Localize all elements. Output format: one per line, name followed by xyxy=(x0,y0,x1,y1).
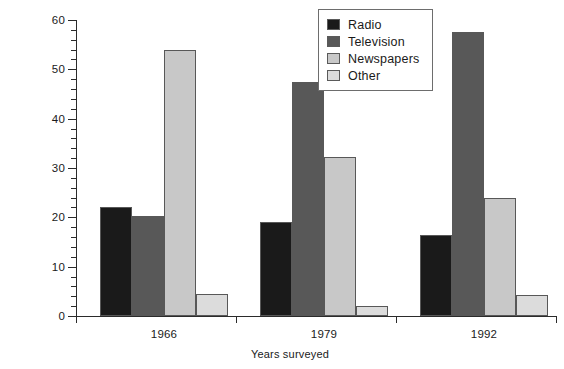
x-axis-tick xyxy=(76,316,77,323)
y-axis-tick-label: 50 xyxy=(52,63,65,75)
bar-other-1992 xyxy=(516,295,548,316)
bar-television-1992 xyxy=(452,32,484,316)
legend-item-radio: Radio xyxy=(327,16,419,33)
bar-television-1979 xyxy=(292,82,324,316)
bar-other-1979 xyxy=(356,306,388,316)
x-axis-tick-label: 1979 xyxy=(311,328,337,340)
x-axis-tick-label: 1966 xyxy=(151,328,177,340)
y-axis-tick-label: 30 xyxy=(52,162,65,174)
legend-swatch-icon xyxy=(327,70,340,81)
y-axis-major-tick xyxy=(68,267,76,268)
x-axis-tick xyxy=(396,316,397,323)
bar-newspapers-1966 xyxy=(164,50,196,316)
y-axis-tick-label: 0 xyxy=(58,310,65,322)
chart-legend: RadioTelevisionNewspapersOther xyxy=(318,9,433,91)
y-axis-tick-label: 20 xyxy=(52,211,65,223)
x-axis-tick xyxy=(236,316,237,323)
legend-swatch-icon xyxy=(327,53,340,64)
bar-television-1966 xyxy=(132,216,164,316)
y-axis-major-tick xyxy=(68,217,76,218)
legend-label: Television xyxy=(348,35,405,49)
bar-newspapers-1992 xyxy=(484,198,516,316)
legend-swatch-icon xyxy=(327,36,340,47)
legend-item-newspapers: Newspapers xyxy=(327,50,419,67)
bar-radio-1979 xyxy=(260,222,292,316)
x-axis-tick xyxy=(556,316,557,323)
bar-radio-1992 xyxy=(420,235,452,316)
bar-newspapers-1979 xyxy=(324,157,356,316)
bar-chart: 0102030405060 Percentage of Australian a… xyxy=(0,0,564,369)
legend-label: Other xyxy=(348,69,380,83)
y-axis-major-tick xyxy=(68,20,76,21)
y-axis-major-tick xyxy=(68,316,76,317)
legend-label: Radio xyxy=(348,18,382,32)
legend-item-television: Television xyxy=(327,33,419,50)
bar-radio-1966 xyxy=(100,207,132,316)
y-axis-line xyxy=(76,20,77,317)
bar-other-1966 xyxy=(196,294,228,316)
y-axis-tick-label: 10 xyxy=(52,261,65,273)
y-axis-major-tick xyxy=(68,168,76,169)
y-axis-major-tick xyxy=(68,69,76,70)
x-axis-tick-label: 1992 xyxy=(471,328,497,340)
legend-item-other: Other xyxy=(327,67,419,84)
y-axis-tick-label: 60 xyxy=(52,14,65,26)
x-axis-title: Years surveyed xyxy=(251,348,329,360)
x-axis-line xyxy=(76,316,557,317)
y-axis-major-tick xyxy=(68,119,76,120)
plot-area: 0102030405060 xyxy=(76,20,556,316)
legend-swatch-icon xyxy=(327,19,340,30)
legend-label: Newspapers xyxy=(348,52,419,66)
y-axis-tick-label: 40 xyxy=(52,113,65,125)
